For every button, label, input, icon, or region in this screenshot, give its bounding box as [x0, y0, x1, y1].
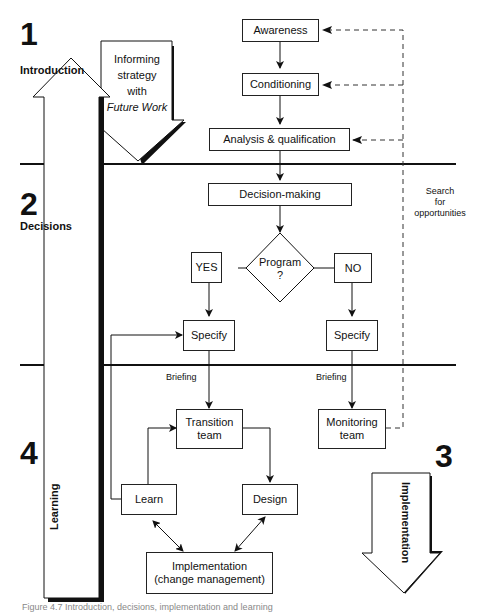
briefing-left-label: Briefing [166, 372, 197, 383]
program-decision-label: Program ? [250, 256, 310, 282]
section-4-number: 4 [20, 437, 38, 469]
learning-arrow-label: Learning [48, 484, 60, 530]
section-1-number: 1 [20, 18, 38, 50]
briefing-right-label: Briefing [316, 372, 347, 383]
implementation-arrow-label: Implementation [400, 482, 412, 563]
node-transition-team: Transition team [176, 409, 243, 449]
node-decision-making: Decision-making [208, 183, 352, 206]
node-conditioning: Conditioning [242, 73, 319, 96]
section-3-number: 3 [435, 440, 453, 472]
node-learn: Learn [121, 484, 177, 515]
node-no: NO [334, 253, 372, 283]
node-yes: YES [191, 252, 222, 283]
search-opportunities-label: Search for opportunities [405, 186, 475, 219]
node-specify-yes: Specify [183, 320, 235, 351]
intro-arrow-text: Informing strategy with Future Work [103, 51, 171, 115]
node-implementation: Implementation (change management) [146, 552, 273, 594]
node-awareness: Awareness [242, 19, 319, 42]
section-2-number: 2 [20, 188, 38, 220]
figure-caption: Figure 4.7 Introduction, decisions, impl… [22, 602, 273, 612]
section-1-label: Introduction [20, 64, 84, 76]
section-2-label: Decisions [20, 220, 72, 232]
node-specify-no: Specify [326, 320, 378, 351]
node-monitoring-team: Monitoring team [318, 409, 386, 449]
node-design: Design [242, 484, 298, 515]
node-analysis: Analysis & qualification [209, 128, 350, 151]
